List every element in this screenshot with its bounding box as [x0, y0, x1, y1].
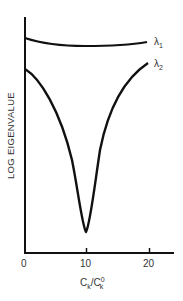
- series-lambda1-line: [25, 38, 147, 46]
- x-axis-label-sup: 0: [101, 276, 105, 283]
- legend-lambda1-sub: 1: [159, 42, 163, 49]
- legend-lambda2: λ2: [154, 58, 163, 71]
- x-axis-label-sub2: k: [100, 283, 104, 290]
- y-axis-label: LOG EIGENVALUE: [5, 86, 16, 186]
- x-axis-label: Ck/C0k: [80, 276, 103, 290]
- x-tick-label-10: 10: [80, 258, 91, 269]
- legend-lambda1: λ1: [154, 36, 163, 49]
- series-lambda2-line: [25, 63, 148, 232]
- x-tick-label-20: 20: [143, 258, 154, 269]
- legend-lambda2-sub: 2: [159, 64, 163, 71]
- x-tick-label-0: 0: [21, 258, 27, 269]
